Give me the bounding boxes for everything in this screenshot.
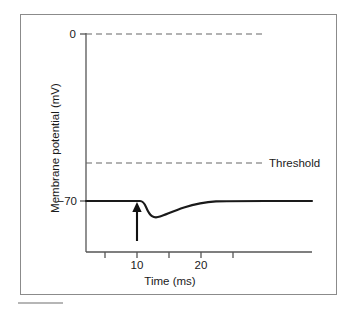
stimulus-arrow-head <box>132 202 141 212</box>
threshold-label: Threshold <box>269 157 320 169</box>
x-tick-label-twenty: 20 <box>195 259 208 271</box>
caption-rule <box>18 302 63 304</box>
membrane-potential-chart: 0 −70 10 20 Time (ms) Membrane potential… <box>0 0 357 311</box>
x-axis-title: Time (ms) <box>144 275 195 287</box>
membrane-potential-trace <box>86 201 312 217</box>
x-tick-label-ten: 10 <box>131 259 144 271</box>
y-tick-label-zero: 0 <box>70 28 76 40</box>
y-axis-title: Membrane potential (mV) <box>49 83 61 213</box>
figure-root: 0 −70 10 20 Time (ms) Membrane potential… <box>0 0 357 311</box>
